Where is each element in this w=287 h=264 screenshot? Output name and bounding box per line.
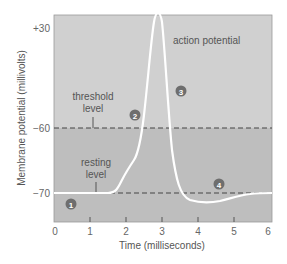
action-potential-label: action potential (173, 35, 240, 46)
marker-1: 1 (66, 199, 77, 210)
y-tick-minus70: −70 (33, 188, 50, 199)
svg-text:1: 1 (87, 226, 93, 237)
threshold-label-line1: threshold (72, 91, 113, 102)
y-axis-title: Membrane potential (millivolts) (16, 50, 27, 186)
svg-text:1: 1 (69, 201, 74, 210)
action-potential-chart: 1 2 3 4 action potential threshold level… (0, 0, 287, 264)
svg-text:4: 4 (195, 226, 201, 237)
x-tick-labels: 0 1 2 3 4 5 6 (52, 226, 271, 237)
marker-4: 4 (214, 179, 225, 190)
marker-2: 2 (130, 110, 141, 121)
svg-text:2: 2 (133, 112, 138, 121)
svg-text:3: 3 (179, 88, 184, 97)
svg-text:6: 6 (265, 226, 271, 237)
svg-text:4: 4 (217, 181, 222, 190)
svg-text:3: 3 (159, 226, 165, 237)
y-tick-minus60: −60 (33, 123, 50, 134)
marker-3: 3 (176, 86, 187, 97)
y-tick-plus30: +30 (33, 23, 50, 34)
x-axis-title: Time (milliseconds) (119, 240, 205, 251)
resting-label-line1: resting (81, 157, 111, 168)
svg-text:0: 0 (52, 226, 58, 237)
threshold-label-line2: level (83, 103, 104, 114)
svg-text:5: 5 (231, 226, 237, 237)
resting-label-line2: level (86, 169, 107, 180)
svg-text:2: 2 (123, 226, 129, 237)
